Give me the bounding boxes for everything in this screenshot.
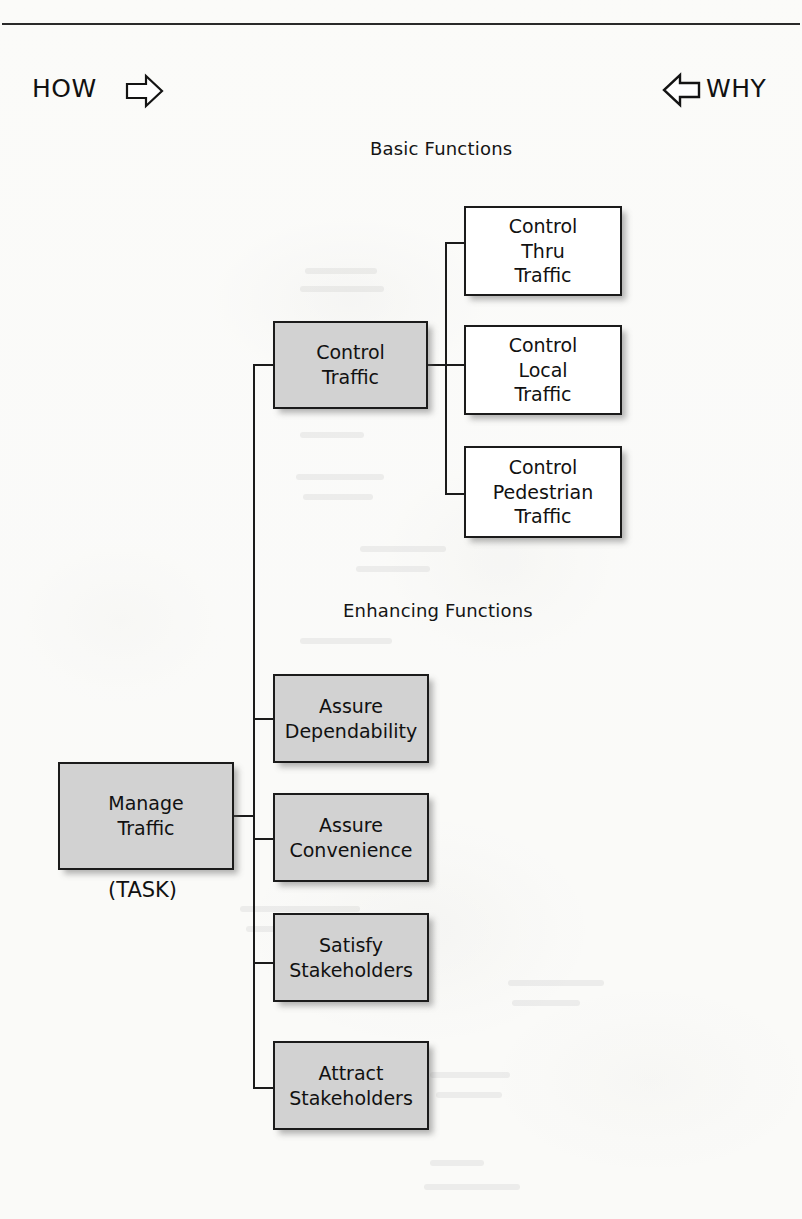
enhancing-functions-section-label: Enhancing Functions — [343, 600, 533, 621]
ghost-text-line — [300, 638, 392, 644]
connector-sub-spine — [445, 242, 447, 495]
ghost-text-line — [512, 1000, 580, 1006]
node-assure-dependability[interactable]: Assure Dependability — [273, 674, 429, 763]
ghost-text-line — [240, 906, 360, 912]
connector-sub-to-local-traffic — [445, 364, 466, 366]
node-line-1: Assure — [319, 813, 383, 838]
node-line-2: Traffic — [117, 816, 174, 841]
connector-task-to-spine — [232, 815, 255, 817]
ghost-text-line — [356, 566, 430, 572]
node-line-2: Thru — [521, 239, 565, 264]
node-line-2: Pedestrian — [493, 480, 593, 505]
node-line-3: Traffic — [514, 382, 571, 407]
ghost-text-line — [508, 980, 604, 986]
node-line-1: Satisfy — [319, 933, 383, 958]
ghost-text-line — [360, 546, 446, 552]
connector-spine-to-attract-stakeholders — [253, 1087, 275, 1089]
node-manage-traffic[interactable]: Manage Traffic — [58, 762, 234, 870]
node-line-3: Traffic — [514, 504, 571, 529]
node-line-3: Traffic — [514, 263, 571, 288]
ghost-text-line — [300, 432, 364, 438]
node-control-traffic[interactable]: Control Traffic — [273, 321, 428, 409]
ghost-text-line — [305, 268, 377, 274]
connector-control-traffic-to-sub-spine — [427, 364, 447, 366]
node-assure-convenience[interactable]: Assure Convenience — [273, 793, 429, 882]
node-control-thru-traffic[interactable]: Control Thru Traffic — [464, 206, 622, 296]
node-line-1: Control — [509, 214, 578, 239]
node-line-2: Traffic — [322, 365, 379, 390]
node-line-1: Attract — [319, 1061, 384, 1086]
ghost-text-line — [424, 1184, 520, 1190]
node-line-2: Local — [518, 358, 567, 383]
connector-spine-to-satisfy-stakeholders — [253, 962, 275, 964]
ghost-text-line — [296, 474, 384, 480]
node-attract-stakeholders[interactable]: Attract Stakeholders — [273, 1041, 429, 1130]
arrow-right-block-icon — [124, 72, 166, 114]
connector-spine-to-assure-dependability — [253, 718, 275, 720]
node-line-2: Stakeholders — [289, 1086, 413, 1111]
node-control-pedestrian-traffic[interactable]: Control Pedestrian Traffic — [464, 446, 622, 538]
task-caption: (TASK) — [108, 878, 177, 902]
why-label: WHY — [706, 74, 766, 103]
node-line-2: Dependability — [285, 719, 417, 744]
node-line-1: Manage — [108, 791, 183, 816]
arrow-left-block-icon — [660, 70, 702, 114]
node-line-2: Stakeholders — [289, 958, 413, 983]
ghost-text-line — [430, 1160, 484, 1166]
node-line-1: Control — [509, 455, 578, 480]
ghost-text-line — [430, 1072, 510, 1078]
connector-spine-to-control-traffic — [253, 364, 275, 366]
node-satisfy-stakeholders[interactable]: Satisfy Stakeholders — [273, 913, 429, 1002]
node-line-1: Assure — [319, 694, 383, 719]
how-label: HOW — [32, 74, 97, 103]
ghost-text-line — [436, 1092, 502, 1098]
ghost-text-line — [300, 286, 384, 292]
node-control-local-traffic[interactable]: Control Local Traffic — [464, 325, 622, 415]
connector-spine-to-assure-convenience — [253, 838, 275, 840]
connector-sub-to-pedestrian-traffic — [445, 493, 466, 495]
connector-sub-to-thru-traffic — [445, 242, 466, 244]
fast-diagram-page: HOW WHY Basic Functions Enhancing Functi… — [0, 0, 802, 1219]
node-line-1: Control — [316, 340, 385, 365]
node-line-1: Control — [509, 333, 578, 358]
page-header-rule — [2, 23, 800, 25]
connector-main-spine — [253, 364, 255, 1089]
node-line-2: Convenience — [289, 838, 412, 863]
ghost-text-line — [303, 494, 373, 500]
basic-functions-section-label: Basic Functions — [370, 138, 512, 159]
